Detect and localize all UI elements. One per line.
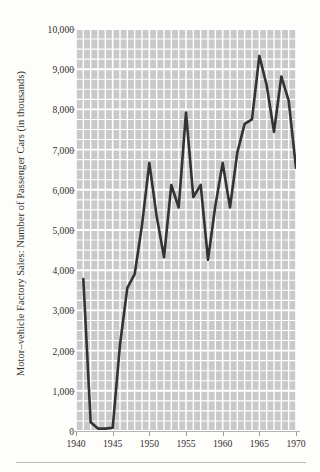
x-axis-tick-label: 1965 — [250, 438, 269, 449]
figure-footer-rule — [16, 462, 306, 463]
x-axis-tick-mark — [223, 432, 224, 436]
plot-area — [76, 29, 296, 431]
y-axis-tick-labels: 10,0009,0008,0007,0006,0005,0004,0003,00… — [30, 0, 74, 446]
x-axis-tick-label: 1960 — [213, 438, 232, 449]
y-axis-tick-label: 10,000 — [48, 24, 74, 35]
y-axis-tick-label: 4,000 — [52, 265, 74, 276]
data-series-line — [83, 56, 296, 429]
x-axis-tick-mark — [186, 432, 187, 436]
y-axis-tick-label: 3,000 — [52, 305, 74, 316]
x-axis-tick-mark — [76, 432, 77, 436]
y-axis-tick-label: 7,000 — [52, 144, 74, 155]
x-axis-tick-mark — [259, 432, 260, 436]
y-axis-title: Motor–vehicle Factory Sales: Number of P… — [16, 70, 27, 375]
y-axis-tick-label: 5,000 — [52, 225, 74, 236]
x-axis-tick-label: 1950 — [140, 438, 159, 449]
x-axis-tick-label: 1970 — [286, 438, 305, 449]
x-axis-tick-label: 1955 — [176, 438, 195, 449]
chart-figure: Motor–vehicle Factory Sales: Number of P… — [0, 0, 320, 472]
y-axis-tick-label: 1,000 — [52, 385, 74, 396]
x-axis-tick-mark — [149, 432, 150, 436]
y-axis-tick-label: 6,000 — [52, 184, 74, 195]
y-axis-tick-label: 2,000 — [52, 345, 74, 356]
y-axis-tick-label: 8,000 — [52, 104, 74, 115]
line-chart-svg — [76, 29, 296, 431]
x-axis-tick-mark — [113, 432, 114, 436]
x-axis-baseline — [70, 431, 300, 432]
y-axis-tick-label: 9,000 — [52, 64, 74, 75]
x-axis-tick-label: 1945 — [103, 438, 122, 449]
x-axis-tick-mark — [296, 432, 297, 436]
